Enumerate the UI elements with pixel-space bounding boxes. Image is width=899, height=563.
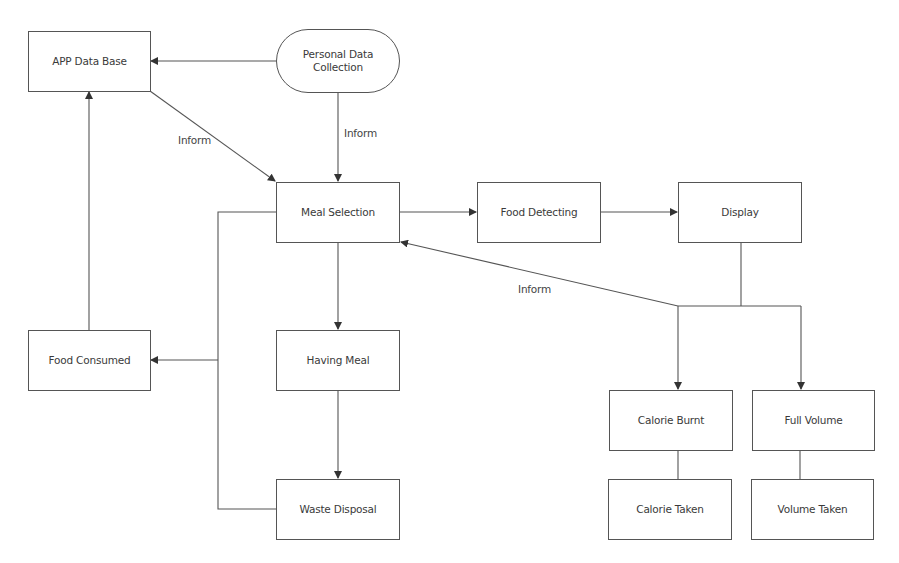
node-label: Full Volume: [784, 414, 842, 427]
node-waste-disposal: Waste Disposal: [276, 479, 400, 540]
node-label: Volume Taken: [778, 503, 848, 516]
node-label-line2: Collection: [313, 61, 363, 74]
node-calorie-taken: Calorie Taken: [608, 479, 732, 540]
node-label: Waste Disposal: [299, 503, 376, 516]
node-app-data-base: APP Data Base: [28, 31, 151, 92]
edge-db-to-meal: [150, 91, 275, 181]
node-label: Calorie Burnt: [638, 414, 704, 427]
edge-display-to-meal: [401, 242, 678, 306]
node-label: Food Detecting: [501, 206, 578, 219]
node-calorie-burnt: Calorie Burnt: [609, 390, 733, 451]
node-volume-taken: Volume Taken: [751, 479, 874, 540]
node-label: Meal Selection: [301, 206, 375, 219]
edge-meal-waste-loop: [218, 212, 276, 509]
node-food-detecting: Food Detecting: [477, 182, 601, 243]
node-personal-data-collection: Personal Data Collection: [276, 29, 400, 93]
node-label: Display: [721, 206, 758, 219]
node-label: Calorie Taken: [636, 503, 703, 516]
node-meal-selection: Meal Selection: [276, 182, 400, 243]
edge-label-display-to-meal: Inform: [518, 283, 551, 295]
node-label: APP Data Base: [52, 55, 127, 68]
node-label-line1: Personal Data: [303, 48, 373, 61]
node-full-volume: Full Volume: [752, 390, 875, 451]
node-food-consumed: Food Consumed: [28, 330, 151, 391]
node-having-meal: Having Meal: [276, 330, 400, 391]
node-display: Display: [678, 182, 802, 243]
edge-label-personal-to-meal: Inform: [344, 127, 377, 139]
node-label: Having Meal: [307, 354, 370, 367]
node-label: Food Consumed: [49, 354, 131, 367]
edge-label-db-to-meal: Inform: [178, 134, 211, 146]
